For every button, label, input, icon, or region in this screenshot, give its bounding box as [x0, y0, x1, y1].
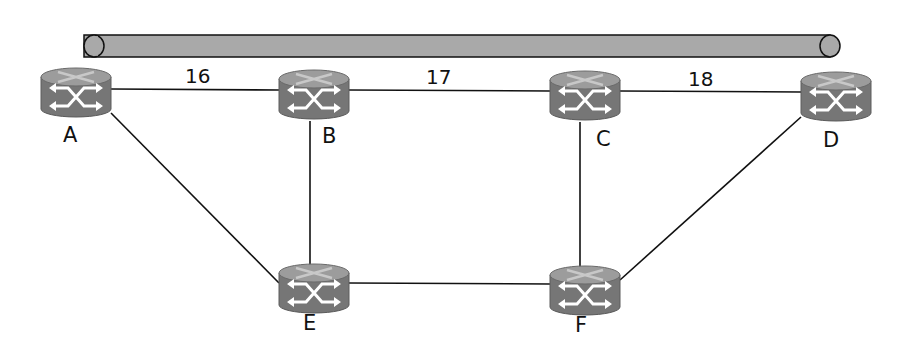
edges	[111, 89, 801, 284]
edge-weight-b-c: 17	[426, 65, 451, 89]
node-label-a: A	[63, 123, 78, 147]
router-icon	[41, 68, 111, 117]
edge-b-c	[349, 90, 550, 91]
node-label-e: E	[303, 311, 316, 335]
backbone-pipe	[84, 35, 840, 57]
router-icon	[550, 71, 620, 120]
router-node-f	[550, 266, 620, 315]
edge-e-f	[349, 283, 550, 284]
router-icon	[801, 72, 871, 121]
edge-weight-a-b: 16	[185, 64, 210, 88]
node-label-f: F	[575, 313, 587, 337]
edge-a-e	[111, 113, 279, 283]
router-node-a	[41, 68, 111, 117]
router-node-c	[550, 71, 620, 120]
edge-c-d	[620, 91, 801, 92]
node-label-d: D	[823, 128, 839, 152]
edge-a-b	[111, 89, 279, 90]
router-icon	[279, 264, 349, 313]
router-icon	[279, 70, 349, 119]
router-node-d	[801, 72, 871, 121]
node-label-b: B	[322, 124, 336, 148]
router-node-e	[279, 264, 349, 313]
edge-d-f	[620, 117, 801, 280]
router-node-b	[279, 70, 349, 119]
router-icon	[550, 266, 620, 315]
network-diagram: 16 17 18 A B C D E F	[0, 0, 907, 347]
node-label-c: C	[596, 127, 611, 151]
edge-weight-c-d: 18	[688, 67, 713, 91]
